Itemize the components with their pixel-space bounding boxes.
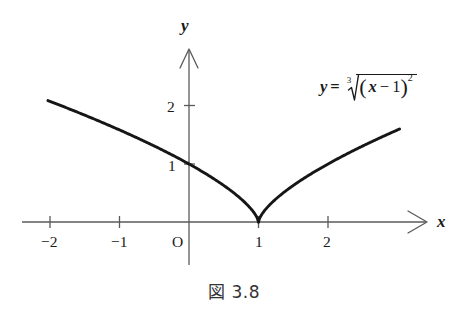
y-axis-label: y	[181, 17, 189, 34]
x-tick-label-1: 1	[255, 234, 263, 250]
plot-canvas	[0, 0, 468, 319]
origin-label: O	[172, 234, 183, 250]
y-tick-label-2: 2	[167, 99, 175, 115]
minus-sign: −	[380, 77, 389, 97]
radicand: ( x − 1 ) 2	[356, 74, 416, 99]
cube-root-radical: 3 ( x − 1 ) 2	[345, 74, 417, 99]
equation-equals-sign: =	[330, 77, 339, 97]
close-paren: )	[400, 77, 407, 98]
y-tick-label-1: 1	[168, 158, 176, 174]
radicand-variable: x	[369, 77, 377, 97]
equation-lhs: y	[320, 77, 327, 97]
curve-left-branch	[48, 101, 259, 222]
x-tick-label--1: −1	[111, 234, 128, 250]
equation-annotation: y = 3 ( x − 1 ) 2	[320, 74, 417, 99]
x-axis-label: x	[437, 213, 446, 230]
open-paren: (	[359, 77, 366, 98]
figure-caption: 図 3.8	[0, 278, 468, 303]
figure-3-8: −2 −1 1 2 O 1 2 y x y = 3 ( x − 1 ) 2	[0, 0, 468, 319]
exponent: 2	[408, 72, 413, 83]
radicand-constant: 1	[392, 77, 400, 97]
curve-right-branch	[259, 129, 400, 222]
root-index: 3	[347, 75, 352, 85]
x-tick-label-2: 2	[323, 234, 331, 250]
x-tick-label--2: −2	[41, 234, 58, 250]
